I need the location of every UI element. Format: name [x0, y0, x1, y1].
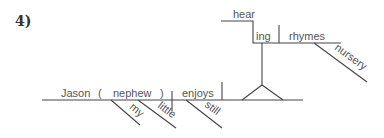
appositive-word: nephew: [113, 87, 152, 99]
modifier-word-little: little: [156, 99, 179, 120]
modifier-word-nursery: nursery: [333, 41, 370, 73]
subject-word: Jason: [61, 87, 90, 99]
sentence-diagram: Jason ( nephew ) enjoys my little still …: [0, 0, 384, 138]
gerund-stem-word: hear: [233, 8, 255, 20]
appositive-close-paren: ): [160, 87, 164, 99]
pedestal-triangle: [242, 85, 283, 100]
modifier-word-still: still: [203, 98, 223, 117]
gerund-object-word: rhymes: [289, 30, 326, 42]
gerund-suffix-word: ing: [256, 30, 271, 42]
appositive-open-paren: (: [98, 87, 102, 99]
